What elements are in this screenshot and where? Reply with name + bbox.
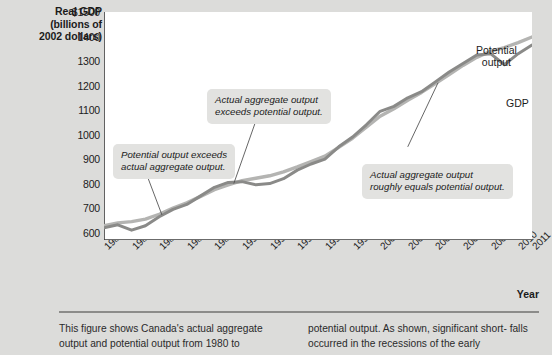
series-label-gdp: GDP — [506, 97, 529, 109]
caption-left-line-2: output and potential output from 1980 to — [59, 338, 240, 349]
caption-column-right: potential output. As shown, significant … — [308, 321, 541, 351]
callout-0-line-2: actual aggregate output. — [121, 161, 227, 173]
plot-area — [104, 12, 532, 240]
series-label-potential-line-1: Potential — [476, 44, 517, 56]
callout-actual-equals-potential: Actual aggregate output roughly equals p… — [362, 164, 513, 199]
caption-column-left: This figure shows Canada's actual aggreg… — [59, 321, 292, 351]
series-label-potential-output: Potential output — [476, 44, 517, 69]
callout-1-line-1: Actual aggregate output — [215, 94, 323, 106]
callout-actual-exceeds-potential: Actual aggregate output exceeds potentia… — [207, 89, 331, 124]
callout-2-line-1: Actual aggregate output — [370, 169, 505, 181]
x-axis-title: Year — [517, 288, 539, 300]
caption-left-line-1: This figure shows Canada's actual aggreg… — [59, 323, 263, 334]
callout-1-line-2: exceeds potential output. — [215, 106, 323, 118]
series-label-potential-line-2: output — [476, 56, 517, 68]
figure-caption: This figure shows Canada's actual aggreg… — [59, 321, 541, 351]
callout-0-line-1: Potential output exceeds — [121, 149, 227, 161]
chart-svg — [104, 12, 532, 240]
callout-potential-exceeds-actual: Potential output exceeds actual aggregat… — [113, 144, 235, 179]
caption-right-line-1: potential output. As shown, significant … — [308, 323, 507, 334]
caption-divider — [59, 311, 539, 313]
callout-2-line-2: roughly equals potential output. — [370, 181, 505, 193]
